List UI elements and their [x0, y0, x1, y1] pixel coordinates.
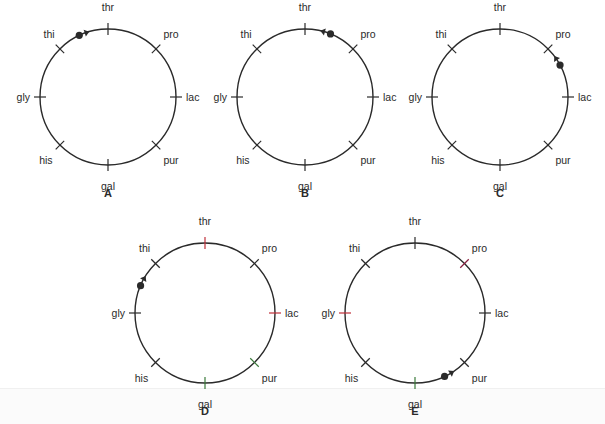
chromosome-map-e: thrprolacpurgalhisglythiE	[322, 215, 509, 417]
gene-label-his: his	[431, 154, 444, 166]
chromosome-map-a: thrprolacpurgalhisglythiA	[17, 1, 200, 199]
origin-dot	[137, 282, 144, 289]
gene-label-thr: thr	[199, 215, 212, 227]
gene-label-pro: pro	[262, 242, 277, 254]
chromosome-map-b: thrprolacpurgalhisglythiB	[214, 1, 397, 199]
origin-dot	[76, 32, 83, 39]
gene-label-pur: pur	[262, 372, 278, 384]
gene-label-thi: thi	[44, 28, 55, 40]
gene-label-thi: thi	[349, 242, 360, 254]
chromosome-map-d: thrprolacpurgalhisglythiD	[112, 215, 299, 417]
origin-dot	[556, 61, 563, 68]
gene-label-pur: pur	[555, 154, 571, 166]
gene-label-lac: lac	[383, 91, 396, 103]
origin-dot	[441, 373, 448, 380]
gene-label-gly: gly	[112, 307, 126, 319]
gene-label-his: his	[236, 154, 249, 166]
panel-label: D	[201, 405, 209, 417]
panel-label: C	[496, 187, 504, 199]
gene-label-his: his	[345, 372, 358, 384]
gene-label-thi: thi	[436, 28, 447, 40]
gene-label-pur: pur	[163, 154, 179, 166]
panel-label: A	[104, 187, 112, 199]
gene-label-his: his	[39, 154, 52, 166]
gene-label-gly: gly	[17, 91, 31, 103]
gene-label-gly: gly	[409, 91, 423, 103]
gene-label-thr: thr	[494, 1, 507, 13]
gene-label-gly: gly	[214, 91, 228, 103]
gene-label-thr: thr	[409, 215, 422, 227]
origin-dot	[327, 30, 334, 37]
gene-label-lac: lac	[285, 307, 298, 319]
gene-label-pro: pro	[555, 28, 570, 40]
gene-label-thi: thi	[139, 242, 150, 254]
gene-label-pur: pur	[472, 372, 488, 384]
gene-label-pro: pro	[163, 28, 178, 40]
gene-label-lac: lac	[495, 307, 508, 319]
gene-label-pro: pro	[472, 242, 487, 254]
gene-label-lac: lac	[186, 91, 199, 103]
panel-label: B	[301, 187, 309, 199]
gene-label-thr: thr	[102, 1, 115, 13]
gene-label-pur: pur	[360, 154, 376, 166]
gene-label-lac: lac	[578, 91, 591, 103]
gene-label-his: his	[135, 372, 148, 384]
gene-label-thr: thr	[299, 1, 312, 13]
chromosome-map-c: thrprolacpurgalhisglythiC	[409, 1, 592, 199]
panel-label: E	[411, 405, 418, 417]
gene-label-thi: thi	[241, 28, 252, 40]
gene-label-gly: gly	[322, 307, 336, 319]
gene-label-pro: pro	[360, 28, 375, 40]
